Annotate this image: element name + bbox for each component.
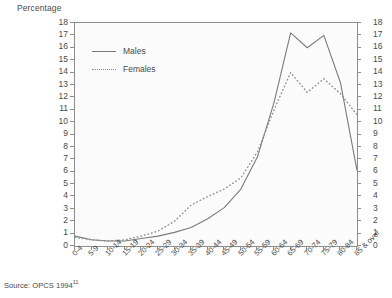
y-tick-mark — [357, 22, 361, 23]
y-axis-right-tick-16: 16 — [373, 42, 382, 51]
y-tick-mark — [70, 22, 74, 23]
y-tick-mark — [357, 34, 361, 35]
y-tick-mark — [70, 34, 74, 35]
y-tick-mark — [70, 146, 74, 147]
y-tick-mark — [357, 109, 361, 110]
source-note-text: Source: OPCS 1994 — [4, 281, 73, 290]
y-tick-mark — [70, 72, 74, 73]
legend-label-males: Males — [123, 46, 146, 56]
y-tick-mark — [70, 96, 74, 97]
y-tick-mark — [357, 245, 361, 246]
y-axis-left-tick-1: 1 — [63, 228, 68, 237]
y-tick-mark — [357, 233, 361, 234]
chart-figure: Percentage 0123456789101112131415161718 … — [0, 0, 392, 298]
y-axis-right-tick-12: 12 — [373, 92, 382, 101]
y-axis-left-tick-7: 7 — [63, 154, 68, 163]
y-axis-left-tick-14: 14 — [59, 67, 68, 76]
y-axis-left-tick-0: 0 — [63, 241, 68, 250]
y-tick-mark — [70, 59, 74, 60]
y-axis-left-tick-16: 16 — [59, 42, 68, 51]
y-axis-left-tick-15: 15 — [59, 55, 68, 64]
y-tick-mark — [70, 245, 74, 246]
y-axis-left-tick-9: 9 — [63, 129, 68, 138]
y-axis-right-tick-4: 4 — [373, 191, 378, 200]
y-tick-mark — [357, 208, 361, 209]
y-tick-mark — [70, 158, 74, 159]
y-tick-mark — [357, 146, 361, 147]
y-axis-left-tick-3: 3 — [63, 204, 68, 213]
y-axis-left-tick-6: 6 — [63, 166, 68, 175]
y-axis-left-tick-13: 13 — [59, 80, 68, 89]
series-line-females — [75, 73, 357, 241]
y-tick-mark — [357, 171, 361, 172]
y-axis-left-tick-18: 18 — [59, 18, 68, 27]
y-axis-right-tick-3: 3 — [373, 204, 378, 213]
y-axis-right-tick-17: 17 — [373, 30, 382, 39]
source-note: Source: OPCS 199411 — [4, 281, 78, 290]
y-axis-right-tick-5: 5 — [373, 179, 378, 188]
legend-label-females: Females — [123, 64, 156, 74]
y-tick-mark — [357, 47, 361, 48]
legend-swatch-females — [92, 69, 116, 72]
y-axis-right-tick-7: 7 — [373, 154, 378, 163]
y-tick-mark — [70, 208, 74, 209]
legend-swatch-males — [92, 51, 116, 54]
y-tick-mark — [357, 183, 361, 184]
y-axis-right-tick-18: 18 — [373, 18, 382, 27]
y-axis-right-tick-10: 10 — [373, 117, 382, 126]
y-axis-left-tick-10: 10 — [59, 117, 68, 126]
y-axis-right-tick-6: 6 — [373, 166, 378, 175]
y-tick-mark — [357, 158, 361, 159]
y-axis-right-tick-11: 11 — [373, 104, 382, 113]
y-tick-mark — [70, 109, 74, 110]
y-tick-mark — [357, 195, 361, 196]
y-tick-mark — [70, 183, 74, 184]
y-axis-right-tick-15: 15 — [373, 55, 382, 64]
y-tick-mark — [357, 84, 361, 85]
y-tick-mark — [70, 121, 74, 122]
y-axis-right-tick-9: 9 — [373, 129, 378, 138]
y-axis-left-tick-4: 4 — [63, 191, 68, 200]
y-tick-mark — [70, 84, 74, 85]
y-tick-mark — [357, 121, 361, 122]
y-tick-mark — [70, 134, 74, 135]
y-tick-mark — [357, 59, 361, 60]
y-tick-mark — [357, 134, 361, 135]
y-axis-left-labels: 0123456789101112131415161718 — [42, 0, 68, 298]
y-axis-right-tick-14: 14 — [373, 67, 382, 76]
y-axis-right-tick-2: 2 — [373, 216, 378, 225]
y-axis-left-tick-2: 2 — [63, 216, 68, 225]
y-tick-mark — [357, 96, 361, 97]
y-axis-left-tick-5: 5 — [63, 179, 68, 188]
y-axis-right-tick-13: 13 — [373, 80, 382, 89]
y-tick-mark — [357, 72, 361, 73]
legend-item-males: Males — [92, 44, 202, 62]
y-axis-left-tick-8: 8 — [63, 142, 68, 151]
y-axis-right-tick-8: 8 — [373, 142, 378, 151]
y-tick-mark — [70, 220, 74, 221]
y-axis-left-tick-12: 12 — [59, 92, 68, 101]
y-tick-mark — [357, 220, 361, 221]
source-note-superscript: 11 — [73, 279, 79, 285]
y-axis-left-tick-11: 11 — [59, 104, 68, 113]
y-tick-mark — [70, 47, 74, 48]
chart-legend: Males Females — [92, 44, 202, 80]
y-axis-left-tick-17: 17 — [59, 30, 68, 39]
y-axis-right-labels: 0123456789101112131415161718 — [364, 0, 390, 298]
y-tick-mark — [70, 233, 74, 234]
y-tick-mark — [70, 171, 74, 172]
legend-item-females: Females — [92, 62, 202, 80]
y-tick-mark — [70, 195, 74, 196]
